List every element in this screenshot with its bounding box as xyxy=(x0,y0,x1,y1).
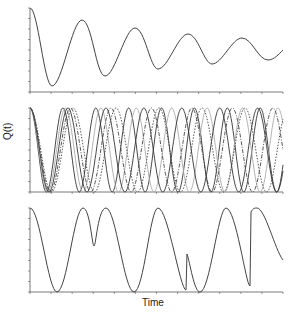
figure xyxy=(0,0,293,316)
damped-curve xyxy=(30,8,283,86)
jump-curve xyxy=(30,208,283,292)
oscillation-s5 xyxy=(30,108,283,192)
bottom-panel xyxy=(28,208,283,294)
y-axis-label: Q(t) xyxy=(2,123,13,140)
x-axis-label: Time xyxy=(142,297,164,308)
top-panel xyxy=(28,8,283,94)
middle-panel xyxy=(28,108,283,194)
